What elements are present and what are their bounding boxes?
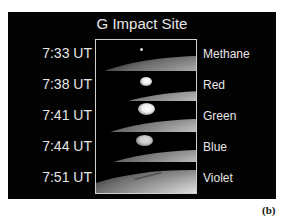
time-label: 7:33 UT xyxy=(30,45,92,61)
filter-label: Methane xyxy=(203,47,250,61)
methane-frame xyxy=(96,40,196,71)
image-strip xyxy=(95,39,197,194)
filter-label: Green xyxy=(203,109,236,123)
filter-label: Red xyxy=(203,78,225,92)
figure-title: G Impact Site xyxy=(8,15,276,32)
filter-label: Blue xyxy=(203,140,227,154)
filter-label: Violet xyxy=(203,171,233,185)
green-frame xyxy=(96,101,196,132)
time-label: 7:44 UT xyxy=(30,138,92,154)
time-label: 7:41 UT xyxy=(30,107,92,123)
time-label: 7:38 UT xyxy=(30,76,92,92)
red-frame xyxy=(96,71,196,102)
figure-panel: G Impact Site 7:33 UT 7:38 UT 7:41 UT 7:… xyxy=(8,12,276,199)
time-label: 7:51 UT xyxy=(30,169,92,185)
blue-frame xyxy=(96,132,196,163)
violet-frame xyxy=(96,162,196,193)
panel-label: (b) xyxy=(262,204,275,216)
